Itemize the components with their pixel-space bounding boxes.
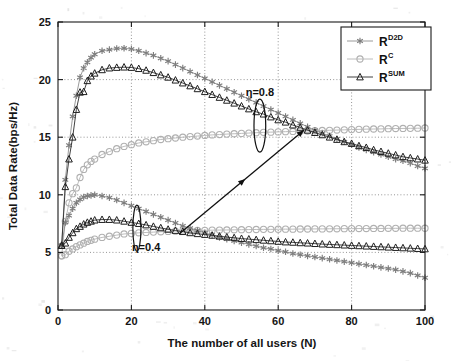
x-tick-label: 100 bbox=[416, 315, 434, 327]
legend: RD2DRCRSUM bbox=[341, 27, 431, 90]
legend-label-superscript: C bbox=[388, 51, 394, 60]
legend-label-base: R bbox=[379, 53, 388, 67]
x-tick-label: 20 bbox=[125, 315, 137, 327]
x-tick-label: 40 bbox=[199, 315, 211, 327]
y-tick-label: 20 bbox=[39, 74, 51, 86]
y-tick-label: 0 bbox=[45, 304, 51, 316]
annotation-label-eta-low: η=0.4 bbox=[132, 241, 161, 253]
y-tick-label: 15 bbox=[39, 131, 51, 143]
x-tick-label: 60 bbox=[272, 315, 284, 327]
x-tick-label: 0 bbox=[55, 315, 61, 327]
legend-label-base: R bbox=[379, 71, 388, 85]
x-axis-title: The number of all users (N) bbox=[168, 337, 317, 349]
y-axis-title: Total Data Rate(bps/Hz) bbox=[7, 102, 19, 230]
x-tick-label: 80 bbox=[345, 315, 357, 327]
y-tick-label: 5 bbox=[45, 246, 51, 258]
legend-label-base: R bbox=[379, 35, 388, 49]
y-tick-label: 25 bbox=[39, 16, 51, 28]
chart-figure: η=0.8η=0.4 0204060801000510152025 RD2DRC… bbox=[0, 0, 451, 361]
y-tick-label: 10 bbox=[39, 189, 51, 201]
legend-label-superscript: SUM bbox=[388, 69, 405, 78]
annotation-label-eta-high: η=0.8 bbox=[246, 86, 274, 98]
legend-label-superscript: D2D bbox=[388, 33, 404, 42]
chart-canvas: η=0.8η=0.4 0204060801000510152025 RD2DRC… bbox=[0, 0, 451, 361]
